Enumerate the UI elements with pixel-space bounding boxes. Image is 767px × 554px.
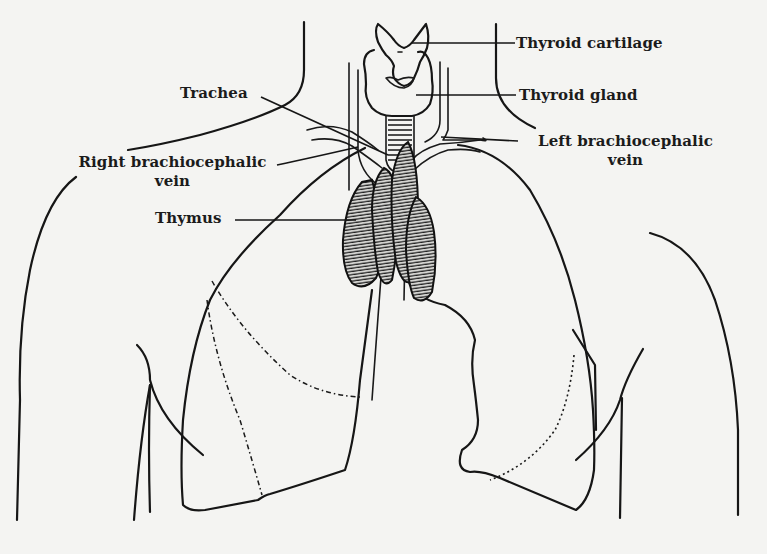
vessel-left-b <box>358 70 378 185</box>
label-thyroid-gland: Thyroid gland <box>519 86 638 105</box>
label-right-brachiocephalic-vein-line1: Right brachiocephalic <box>70 153 275 172</box>
label-left-brachiocephalic-vein-line2: vein <box>523 151 728 170</box>
label-left-brachiocephalic-vein: Left brachiocephalic vein <box>523 132 728 170</box>
arm-crease-left-a <box>134 385 150 520</box>
thyroid-cartilage-shape <box>376 24 428 86</box>
brachiocephalic-vein-right-lower <box>312 139 382 168</box>
lung-fissure-horizontal-left <box>212 281 360 397</box>
brachiocephalic-vein-left-lower <box>414 149 480 170</box>
lung-fissure-oblique-left <box>207 300 262 495</box>
arm-crease-left-b <box>149 385 150 512</box>
label-left-brachiocephalic-vein-line1: Left brachiocephalic <box>523 132 728 151</box>
anatomy-illustration <box>0 0 767 554</box>
thymus-lobe-outer-right <box>406 197 436 300</box>
label-trachea: Trachea <box>180 84 248 103</box>
lung-outline-viewer-left <box>182 148 373 510</box>
vessel-right-b <box>443 68 486 141</box>
label-right-brachiocephalic-vein: Right brachiocephalic vein <box>70 153 275 191</box>
anatomy-figure: Thyroid cartilage Thyroid gland Trachea … <box>0 0 767 554</box>
arm-crease-right <box>620 398 622 518</box>
lung-fissure-right <box>490 355 574 480</box>
label-thymus: Thymus <box>155 209 222 228</box>
arm-inner-right <box>576 349 643 460</box>
lung-outline-viewer-right <box>404 145 594 510</box>
label-right-brachiocephalic-vein-line2: vein <box>70 172 275 191</box>
leader-right-brachiocephalic-vein <box>277 147 358 165</box>
label-thyroid-cartilage: Thyroid cartilage <box>516 34 663 53</box>
leader-trachea <box>261 97 388 155</box>
body-outline-right <box>650 233 738 515</box>
body-outline-left <box>17 177 76 520</box>
